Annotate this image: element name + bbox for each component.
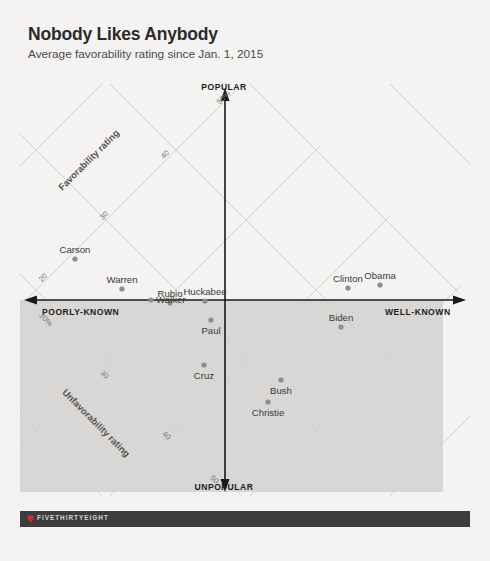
data-point-label: Bush — [270, 386, 292, 396]
data-point-label: Christie — [252, 408, 285, 418]
data-point-label: Rubio — [157, 289, 182, 299]
data-point — [338, 324, 343, 329]
data-point-label: Biden — [329, 313, 354, 323]
data-point — [201, 362, 206, 367]
data-point-label: Cruz — [194, 371, 214, 381]
unpopular-shaded-region — [20, 300, 443, 492]
well-known-arrowhead — [453, 296, 466, 305]
data-point-label: Paul — [201, 326, 220, 336]
footer-bar: FIVETHIRTYEIGHT — [20, 511, 470, 527]
axis-label-unpopular: UNPOPULAR — [195, 483, 254, 492]
axis-label-poorly-known: POORLY-KNOWN — [42, 308, 119, 317]
data-point — [265, 399, 270, 404]
scatter-plot: CarsonWarrenWalkerRubioHuckabeePaulCruzB… — [20, 84, 470, 496]
data-point-label: Clinton — [333, 274, 363, 284]
fivethirtyeight-logo: FIVETHIRTYEIGHT — [27, 515, 109, 521]
data-point — [345, 285, 350, 290]
data-point-label: Warren — [106, 275, 137, 285]
chart-card: Nobody Likes Anybody Average favorabilit… — [0, 0, 490, 561]
data-point — [208, 317, 213, 322]
data-point-label: Huckabee — [183, 287, 226, 297]
data-point-label: Carson — [60, 245, 91, 255]
fivethirtyeight-logo-icon — [27, 515, 34, 523]
page-title: Nobody Likes Anybody — [28, 24, 458, 44]
data-point — [119, 286, 124, 291]
chart-subtitle: Average favorability rating since Jan. 1… — [28, 47, 458, 61]
axis-label-well-known: WELL-KNOWN — [385, 308, 451, 317]
data-point — [72, 256, 77, 261]
data-point — [377, 282, 382, 287]
footer-logo-text: FIVETHIRTYEIGHT — [27, 514, 109, 521]
data-point — [148, 297, 153, 302]
chart-header: Nobody Likes Anybody Average favorabilit… — [28, 24, 458, 61]
data-point-label: Obama — [364, 271, 395, 281]
data-point — [278, 377, 283, 382]
data-point — [202, 298, 207, 303]
plot-canvas — [20, 84, 470, 496]
